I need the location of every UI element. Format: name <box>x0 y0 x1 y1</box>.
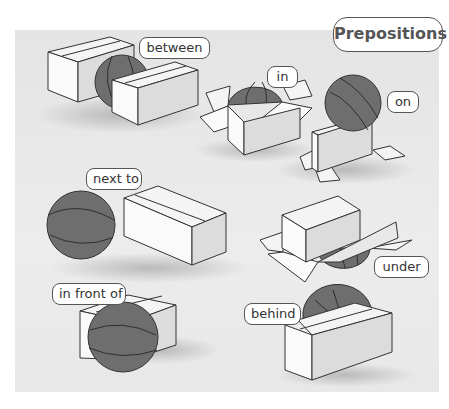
ball-icon <box>47 191 115 259</box>
scene-in <box>195 80 315 162</box>
page-title: Prepositions <box>333 17 443 52</box>
scene-next-to <box>47 186 250 283</box>
scene-in-front-of <box>80 295 220 372</box>
scene-behind <box>275 284 415 387</box>
label-between: between <box>139 37 210 59</box>
label-in: in <box>267 66 298 88</box>
label-under: under <box>374 256 429 278</box>
label-next-to: next to <box>86 168 142 190</box>
label-on: on <box>387 91 419 113</box>
label-in-front-of: in front of <box>52 283 126 305</box>
prepositions-illustration <box>0 0 449 409</box>
label-behind: behind <box>244 303 301 325</box>
ball-icon <box>88 302 158 372</box>
ball-icon <box>325 75 381 131</box>
